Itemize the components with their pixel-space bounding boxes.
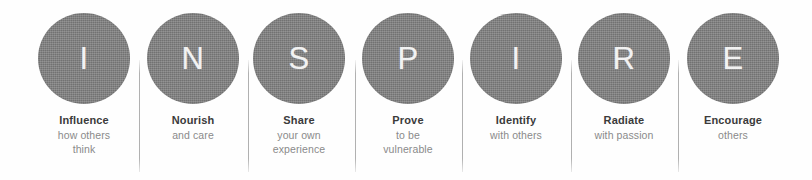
acronym-letter: I — [79, 43, 88, 74]
acronym-letter: S — [288, 43, 309, 74]
inspire-infographic: I Influence how others think N Nourish a… — [0, 0, 812, 180]
letter-circle-wrap: I — [38, 13, 130, 104]
circle-shape: E — [687, 13, 779, 104]
divider-6 — [678, 60, 679, 172]
divider-1 — [139, 60, 140, 172]
acronym-item-encourage: E Encourage others — [680, 0, 786, 180]
acronym-letter: N — [182, 43, 205, 74]
caption-title: Influence — [26, 113, 142, 127]
divider-2 — [248, 60, 249, 172]
caption-block: Influence how others think — [26, 113, 142, 156]
letter-circle-wrap: R — [578, 13, 670, 104]
acronym-item-influence: I Influence how others think — [26, 0, 142, 180]
acronym-letter: I — [511, 43, 520, 74]
caption-title: Identify — [466, 113, 566, 127]
caption-subtitle: and care — [143, 129, 243, 143]
caption-title: Radiate — [572, 113, 676, 127]
caption-title: Nourish — [143, 113, 243, 127]
acronym-letter: E — [722, 43, 743, 74]
caption-title: Share — [249, 113, 349, 127]
acronym-item-prove: P Prove to be vulnerable — [358, 0, 458, 180]
acronym-letter: R — [613, 43, 636, 74]
divider-5 — [571, 60, 572, 172]
letter-circle-wrap: I — [470, 13, 562, 104]
letter-circle-wrap: S — [253, 13, 345, 104]
letter-circle-wrap: N — [147, 13, 239, 104]
circle-shape: P — [362, 13, 454, 104]
caption-subtitle: with others — [466, 129, 566, 143]
acronym-item-share: S Share your own experience — [249, 0, 349, 180]
circle-shape: S — [253, 13, 345, 104]
circle-shape: N — [147, 13, 239, 104]
acronym-item-nourish: N Nourish and care — [143, 0, 243, 180]
letter-circle-wrap: P — [362, 13, 454, 104]
circle-shape: I — [470, 13, 562, 104]
circle-shape: R — [578, 13, 670, 104]
caption-block: Encourage others — [680, 113, 786, 143]
acronym-item-identify: I Identify with others — [466, 0, 566, 180]
acronym-letter: P — [397, 43, 418, 74]
caption-subtitle: to be vulnerable — [358, 129, 458, 156]
caption-subtitle: your own experience — [249, 129, 349, 156]
divider-3 — [355, 60, 356, 172]
caption-block: Share your own experience — [249, 113, 349, 156]
letter-circle-wrap: E — [687, 13, 779, 104]
divider-4 — [462, 60, 463, 172]
caption-subtitle: others — [680, 129, 786, 143]
caption-title: Encourage — [680, 113, 786, 127]
caption-title: Prove — [358, 113, 458, 127]
caption-subtitle: with passion — [572, 129, 676, 143]
caption-block: Prove to be vulnerable — [358, 113, 458, 156]
acronym-item-radiate: R Radiate with passion — [572, 0, 676, 180]
caption-subtitle: how others think — [26, 129, 142, 156]
caption-block: Radiate with passion — [572, 113, 676, 143]
caption-block: Nourish and care — [143, 113, 243, 143]
circle-shape: I — [38, 13, 130, 104]
caption-block: Identify with others — [466, 113, 566, 143]
